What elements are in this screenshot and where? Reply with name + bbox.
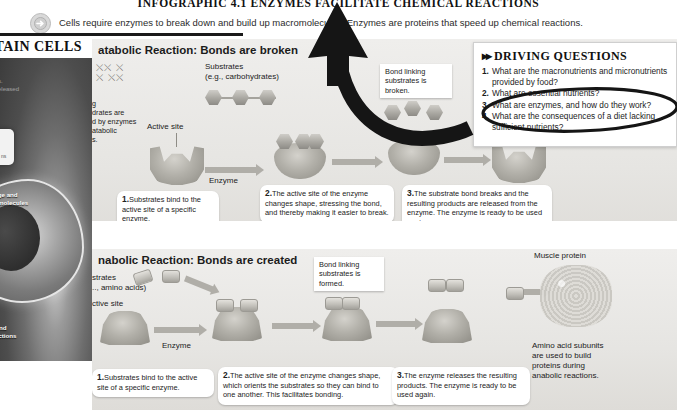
amino-acid-square (506, 287, 524, 300)
anabolic-panel: nabolic Reaction: Bonds are created stra… (92, 249, 677, 410)
enzyme-shape-bound (212, 307, 262, 341)
enzyme-shape-reset (492, 143, 546, 183)
driving-questions-list: 1. What are the macronutrients and micro… (482, 66, 669, 132)
question-text: What are the macronutrients and micronut… (492, 66, 669, 87)
question-number: 3. (482, 100, 489, 111)
product-hexagon (384, 105, 401, 120)
driving-question-item: 3. What are enzymes, and how do they wor… (482, 100, 669, 111)
textbook-page: INFOGRAPHIC 4.1 ENZYMES FACILITATE CHEMI… (0, 0, 677, 410)
squiggle-molecule-left: ⤬⤬ ⤬⤬ ⤬⤬ (96, 63, 124, 83)
driving-questions-title-text: DRIVING QUESTIONS (494, 49, 627, 63)
question-number: 2. (482, 88, 489, 99)
enzyme-shape-joined (322, 307, 372, 341)
substrate-square (162, 270, 180, 283)
product-hexagon (404, 101, 421, 116)
process-arrow (332, 159, 376, 165)
label-storage-molecules: torage and ace molecules (0, 191, 28, 207)
process-arrow (272, 323, 314, 329)
driving-question-item: 1. What are the macronutrients and micro… (482, 66, 669, 87)
page-header-title: INFOGRAPHIC 4.1 ENZYMES FACILITATE CHEMI… (0, 0, 677, 12)
label-instructions: g and tructions (0, 324, 16, 340)
step-number: 2. (265, 188, 272, 198)
substrate-hexagon (259, 90, 276, 105)
step-number: 1. (122, 194, 129, 204)
substrate-square (132, 269, 153, 287)
substrate-square (325, 297, 343, 310)
step-text: The active site of the enzyme changes sh… (223, 371, 380, 399)
arrow-right-circle-icon (30, 13, 51, 34)
process-arrow (205, 167, 257, 173)
process-arrow (184, 276, 214, 293)
question-text: What are essential nutrients? (492, 88, 669, 99)
enzyme-shape-open (100, 311, 150, 345)
substrate-square (216, 299, 234, 312)
double-chevron-right-icon: ▸▸ (482, 49, 490, 63)
anabolic-step-1: 1.Substrates bind to the active site of … (92, 369, 214, 397)
product-square (428, 279, 446, 292)
catabolic-step-2: 2.The active site of the enzyme changes … (260, 185, 394, 223)
active-site-label-anabolic: ctive site (92, 299, 123, 309)
enzyme-label-anabolic: Enzyme (162, 341, 191, 351)
bond-broken-callout: Bond linking substrates is broken. (380, 64, 452, 98)
substrate-hexagon (232, 90, 249, 105)
enzyme-shape-releasing (388, 139, 440, 175)
question-number: 1. (482, 66, 489, 87)
page-subtitle-text: Cells require enzymes to break down and … (59, 17, 583, 29)
question-text: What are enzymes, and how do they work? (492, 100, 669, 111)
left-photo-column: uids. is released ns torage and ace mole… (0, 39, 92, 361)
step-text: Substrates bind to the active site of a … (122, 195, 201, 223)
step-number: 1. (97, 372, 104, 382)
step-text: The enzyme releases the resulting produc… (397, 371, 517, 399)
page-subtitle-row: Cells require enzymes to break down and … (30, 12, 670, 34)
anabolic-step-3: 3.The enzyme releases the resulting prod… (392, 367, 530, 405)
driving-question-item: 2. What are essential nutrients? (482, 88, 669, 99)
step-number: 2. (223, 370, 230, 380)
product-hexagon (426, 105, 443, 120)
enzyme-shape-open (150, 145, 204, 185)
question-number: 4. (482, 111, 489, 132)
catabolic-panel-footer (92, 221, 677, 247)
step-text: Substrates bind to the active site of a … (97, 373, 197, 392)
process-arrow (376, 321, 416, 327)
amino-acid-note: Amino acid subunits are used to build pr… (532, 341, 604, 381)
question-text: What are the consequences of a diet lack… (492, 111, 669, 132)
substrates-label-catabolic: Substrates (e.g., carbohydrates) (205, 62, 279, 82)
process-arrow (444, 157, 484, 163)
enzyme-label-catabolic: Enzyme (209, 176, 238, 186)
left-white-chip: ns (0, 129, 14, 165)
anabolic-step-2: 2.The active site of the enzyme changes … (218, 367, 398, 405)
process-arrow (154, 327, 200, 333)
muscle-protein-illustration (540, 265, 612, 327)
catabolic-title: atabolic Reaction: Bonds are broken (98, 43, 298, 58)
active-site-leader-line (176, 133, 177, 147)
catabolic-left-note: g drates are d by enzymes atabolic s. (92, 99, 136, 144)
driving-questions-title: ▸▸DRIVING QUESTIONS (482, 48, 669, 64)
substrate-hexagon (205, 90, 222, 105)
step-number: 3. (397, 370, 404, 380)
anabolic-title: nabolic Reaction: Bonds are created (98, 253, 297, 268)
left-faint-text: uids. is released (0, 77, 19, 93)
step-text: The active site of the enzyme changes sh… (265, 189, 389, 217)
enzyme-shape-reset (422, 309, 472, 343)
product-square (446, 279, 464, 292)
substrate-square (240, 299, 258, 312)
driving-question-item: 4. What are the consequences of a diet l… (482, 111, 669, 132)
step-number: 3. (407, 188, 414, 198)
left-chip-text: ns (1, 153, 6, 159)
muscle-protein-label: Muscle protein (534, 251, 586, 261)
bond-formed-callout: Bond linking substrates is formed. (314, 257, 384, 291)
driving-questions-panel: ▸▸DRIVING QUESTIONS 1. What are the macr… (473, 42, 677, 147)
active-site-label-catabolic: Active site (147, 122, 183, 132)
substrate-square (342, 297, 360, 310)
